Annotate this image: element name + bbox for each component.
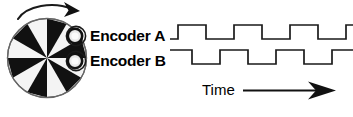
sensor-a-icon: [66, 26, 85, 45]
encoder-waveform-chart: [170, 18, 353, 76]
sensor-b-icon: [66, 51, 85, 70]
time-axis-arrow: [196, 76, 346, 110]
figure-canvas: Encoder A Encoder B Time: [0, 0, 353, 117]
waveform-encoder-a: [170, 25, 353, 39]
encoder-b-label: Encoder B: [90, 53, 166, 69]
waveform-encoder-b: [170, 50, 353, 64]
rotation-arrow: [18, 2, 80, 19]
encoder-wheel-svg: [2, 0, 102, 110]
encoder-a-label: Encoder A: [90, 28, 165, 44]
